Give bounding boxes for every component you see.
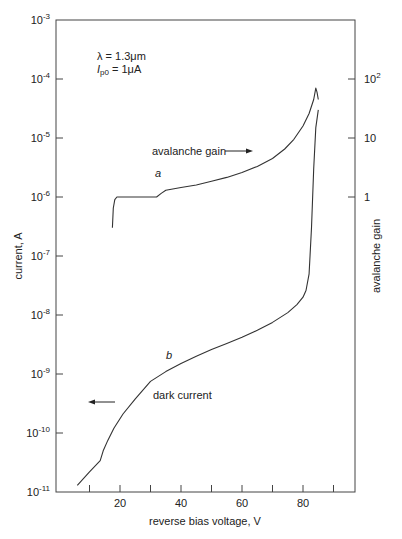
curve-a-label: a: [155, 167, 161, 179]
y-tick-label: 10-10: [26, 425, 50, 439]
y2-tick-label: 10: [364, 132, 376, 144]
photocurrent-label: Ip0 = 1μA: [97, 63, 142, 77]
x-axis-ticks: 20406080: [90, 485, 334, 509]
iv-gain-chart: 20406080 10-310-410-510-610-710-810-910-…: [0, 0, 402, 539]
arrow-right-icon: [225, 149, 253, 154]
y-tick-label: 10-5: [31, 130, 51, 144]
y-tick-label: 10-7: [31, 248, 51, 262]
y-tick-label: 10-8: [31, 307, 51, 321]
y-tick-label: 10-9: [31, 366, 51, 380]
avalanche-gain-label: avalanche gain: [152, 145, 226, 157]
x-tick-label: 40: [175, 497, 187, 509]
ip0-value: = 1μA: [109, 63, 142, 75]
y-tick-label: 10-6: [31, 189, 51, 203]
x-tick-label: 80: [297, 497, 309, 509]
x-tick-label: 60: [236, 497, 248, 509]
curve-b-label: b: [166, 349, 172, 361]
y-axis-ticks: 10-310-410-510-610-710-810-910-1010-11: [26, 12, 63, 498]
y-tick-label: 10-11: [27, 484, 51, 498]
arrow-left-icon: [88, 400, 115, 405]
y2-tick-label: 1: [364, 191, 370, 203]
y-tick-label: 10-3: [31, 12, 51, 26]
y-tick-label: 10-4: [31, 71, 51, 85]
y2-axis-title: avalanche gain: [370, 219, 382, 293]
series-a-line: [112, 88, 318, 228]
y2-axis-ticks: 102101: [348, 71, 381, 203]
dark-current-label: dark current: [153, 389, 212, 401]
wavelength-label: λ = 1.3μm: [97, 50, 146, 62]
series-b-line: [77, 110, 318, 486]
x-tick-label: 20: [114, 497, 126, 509]
y2-tick-label: 102: [364, 71, 381, 85]
x-axis-title: reverse bias voltage, V: [149, 515, 262, 527]
y-axis-title: current, A: [12, 232, 24, 280]
